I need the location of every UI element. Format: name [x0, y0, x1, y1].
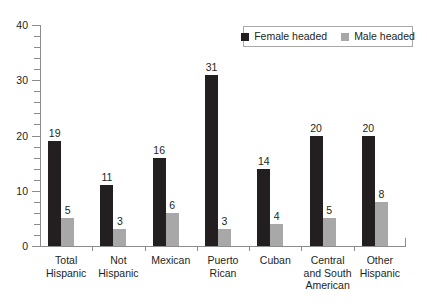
bar — [323, 218, 336, 246]
y-axis-major-tick — [32, 246, 40, 247]
bar — [270, 224, 283, 246]
bar-value-label: 20 — [304, 123, 329, 134]
y-axis-tick-label: 20 — [0, 131, 28, 142]
y-axis-tick-label: 10 — [0, 186, 28, 197]
bar-value-label: 3 — [212, 216, 237, 227]
y-axis-tick-label: 0 — [0, 241, 28, 252]
bar-value-label: 4 — [264, 211, 289, 222]
x-axis-tick — [301, 246, 302, 251]
bar-value-label: 6 — [160, 200, 185, 211]
y-axis-tick-label: 30 — [0, 75, 28, 86]
bar-value-label: 8 — [369, 189, 394, 200]
bar — [113, 229, 126, 246]
y-axis-major-tick — [32, 25, 40, 26]
x-axis-tick — [92, 246, 93, 251]
x-axis-line — [40, 246, 406, 247]
bar — [61, 218, 74, 246]
y-axis-tick-label: 40 — [0, 20, 28, 31]
bar-value-label: 19 — [42, 128, 67, 139]
bar — [310, 136, 323, 247]
bar — [218, 229, 231, 246]
bar-value-label: 31 — [199, 62, 224, 73]
bar-chart: Female headed Male headed 010203040 1951… — [0, 0, 427, 304]
x-axis-category-label: OtherHispanic — [346, 254, 414, 279]
y-axis-major-tick — [32, 136, 40, 137]
bar-value-label: 20 — [356, 123, 381, 134]
plot-area: 195113166313144205208 — [40, 25, 406, 246]
x-axis-tick — [354, 246, 355, 251]
bar-value-label: 16 — [147, 145, 172, 156]
bar — [166, 213, 179, 246]
x-axis-tick — [145, 246, 146, 251]
bar-value-label: 3 — [107, 216, 132, 227]
y-axis-major-tick — [32, 80, 40, 81]
category-label-line: Other — [346, 254, 414, 267]
category-label-line: Hispanic — [84, 267, 152, 280]
category-label-line: Hispanic — [346, 267, 414, 280]
y-axis-major-tick — [32, 191, 40, 192]
x-axis-tick — [249, 246, 250, 251]
bar-value-label: 11 — [94, 172, 119, 183]
bar-value-label: 5 — [55, 205, 80, 216]
x-axis-tick — [197, 246, 198, 251]
bar — [257, 169, 270, 246]
category-label-line: American — [293, 279, 361, 292]
bar-value-label: 14 — [251, 156, 276, 167]
bar — [375, 202, 388, 246]
bar — [48, 141, 61, 246]
category-label-line: Rican — [189, 267, 257, 280]
bar-value-label: 5 — [317, 205, 342, 216]
